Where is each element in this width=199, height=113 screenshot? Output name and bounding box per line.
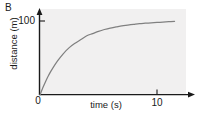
data-curve <box>40 21 175 95</box>
figure-panel-b: B distance (m) 100 0 10 time (s) <box>0 0 199 113</box>
x-axis-arrowhead <box>188 92 195 98</box>
y-axis-arrowhead <box>37 8 43 15</box>
axes-and-curve <box>0 0 199 113</box>
